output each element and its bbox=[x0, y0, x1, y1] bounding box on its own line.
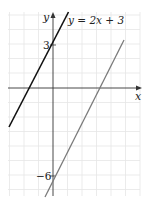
tick-label-3: 3 bbox=[43, 39, 50, 51]
graph: y x y = 2x + 3 3 −6 bbox=[0, 0, 147, 204]
tick-label-neg6: −6 bbox=[36, 170, 52, 182]
grid bbox=[8, 12, 140, 196]
equation-label: y = 2x + 3 bbox=[67, 14, 124, 26]
y-axis-label: y bbox=[42, 11, 50, 24]
line-y-2x-minus-6 bbox=[45, 40, 124, 197]
x-axis-label: x bbox=[135, 90, 142, 103]
